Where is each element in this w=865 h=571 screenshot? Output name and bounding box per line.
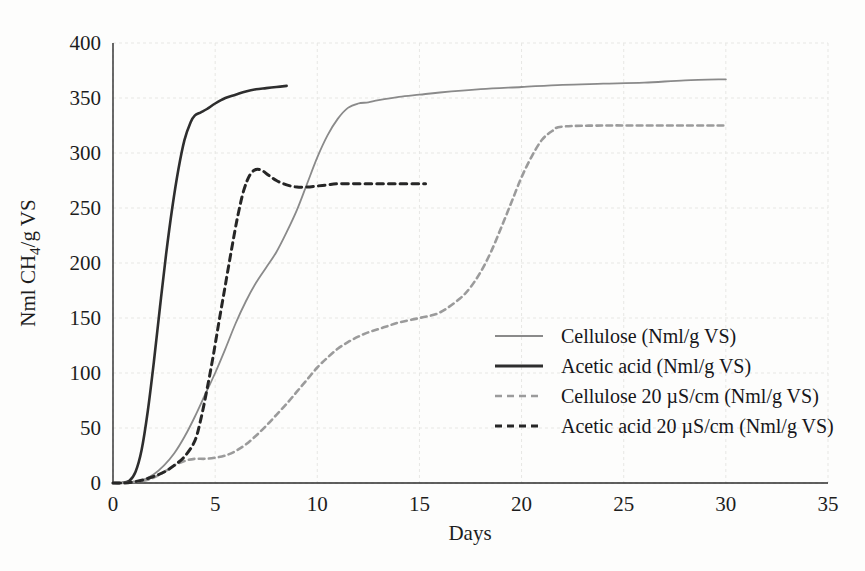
legend-label-3: Acetic acid 20 µS/cm (Nml/g VS) bbox=[561, 415, 834, 438]
y-tick-label: 350 bbox=[70, 86, 102, 110]
chart-legend: Cellulose (Nml/g VS)Acetic acid (Nml/g V… bbox=[495, 325, 834, 438]
y-tick-labels: 050100150200250300350400 bbox=[70, 31, 102, 495]
y-tick-label: 50 bbox=[80, 416, 101, 440]
legend-label-2: Cellulose 20 µS/cm (Nml/g VS) bbox=[561, 385, 819, 408]
x-tick-label: 10 bbox=[307, 492, 328, 516]
x-tick-label: 15 bbox=[409, 492, 430, 516]
y-tick-label: 250 bbox=[70, 196, 102, 220]
y-tick-label: 200 bbox=[70, 251, 102, 275]
x-tick-label: 25 bbox=[613, 492, 634, 516]
chart-figure: 05101520253035 050100150200250300350400 … bbox=[0, 0, 865, 571]
y-axis-title: Nml CH4/g VS bbox=[16, 199, 43, 326]
line-chart: 05101520253035 050100150200250300350400 … bbox=[0, 0, 865, 571]
legend-label-1: Acetic acid (Nml/g VS) bbox=[561, 355, 751, 378]
legend-label-0: Cellulose (Nml/g VS) bbox=[561, 325, 736, 348]
x-tick-label: 30 bbox=[715, 492, 736, 516]
y-tick-label: 300 bbox=[70, 141, 102, 165]
x-tick-label: 0 bbox=[108, 492, 119, 516]
y-tick-label: 100 bbox=[70, 361, 102, 385]
x-tick-label: 5 bbox=[210, 492, 221, 516]
x-axis-title: Days bbox=[448, 521, 491, 545]
y-tick-label: 400 bbox=[70, 31, 102, 55]
series-line-3 bbox=[113, 169, 426, 483]
x-tick-label: 20 bbox=[511, 492, 532, 516]
x-tick-labels: 05101520253035 bbox=[108, 492, 839, 516]
x-tick-label: 35 bbox=[818, 492, 839, 516]
y-tick-label: 150 bbox=[70, 306, 102, 330]
y-tick-label: 0 bbox=[91, 471, 102, 495]
